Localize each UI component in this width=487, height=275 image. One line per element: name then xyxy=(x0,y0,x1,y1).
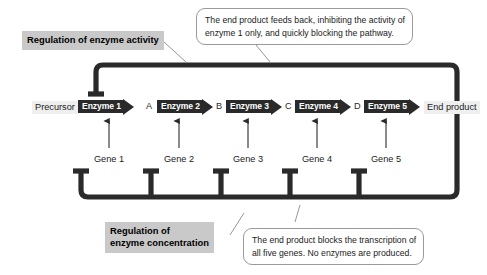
enzyme-label-5: Enzyme 5 xyxy=(364,100,410,113)
end-product-label: End product xyxy=(424,101,480,114)
enzyme-block-3: Enzyme 3 xyxy=(226,100,282,113)
enzyme-concentration-feedback-loop xyxy=(73,170,457,197)
enzyme-arrowhead-1 xyxy=(123,99,134,115)
enzyme-label-3: Enzyme 3 xyxy=(226,100,272,113)
gene-label-2: Gene 2 xyxy=(154,155,204,164)
leader-enzyme-concentration-label xyxy=(230,213,244,235)
callout-bottom-line-1: The end product blocks the transcription… xyxy=(252,234,416,247)
enzyme-arrowhead-2 xyxy=(202,99,213,115)
annotation-concentration-line-1: Regulation of xyxy=(110,225,209,237)
callout-top-line-1: The end product feeds back, inhibiting t… xyxy=(205,14,405,27)
enzyme-block-1: Enzyme 1 xyxy=(78,100,134,113)
intermediate-label-c: C xyxy=(285,102,292,111)
enzyme-block-5: Enzyme 5 xyxy=(364,100,420,113)
callout-enzyme-activity: The end product feeds back, inhibiting t… xyxy=(196,8,413,45)
enzyme-arrowhead-4 xyxy=(340,99,351,115)
enzyme-block-2: Enzyme 2 xyxy=(157,100,213,113)
callout-top-line-2: enzyme 1 only, and quickly blocking the … xyxy=(205,27,405,40)
gene-label-4: Gene 4 xyxy=(292,155,342,164)
enzyme-label-2: Enzyme 2 xyxy=(157,100,203,113)
enzyme-label-1: Enzyme 1 xyxy=(78,100,124,113)
enzyme-label-4: Enzyme 4 xyxy=(295,100,341,113)
precursor-label: Precursor xyxy=(32,101,78,114)
pathway-regulation-diagram: Regulation of enzyme activity The end pr… xyxy=(0,0,487,275)
callout-bottom-line-2: all five genes. No enzymes are produced. xyxy=(252,247,416,260)
leader-top-callout xyxy=(256,45,270,62)
intermediate-label-d: D xyxy=(354,102,361,111)
gene-label-1: Gene 1 xyxy=(84,155,134,164)
transcription-loop-path xyxy=(81,172,457,197)
annotation-concentration-line-2: enzyme concentration xyxy=(110,237,209,249)
enzyme-block-4: Enzyme 4 xyxy=(295,100,351,113)
leader-bottom-callout xyxy=(295,205,300,222)
annotation-enzyme-concentration: Regulation of enzyme concentration xyxy=(105,222,214,253)
gene-label-3: Gene 3 xyxy=(223,155,273,164)
enzyme-arrowhead-3 xyxy=(271,99,282,115)
enzyme-arrowhead-5 xyxy=(409,99,420,115)
leader-enzyme-activity-label xyxy=(164,42,186,62)
gene-label-5: Gene 5 xyxy=(361,155,411,164)
intermediate-label-b: B xyxy=(216,102,222,111)
leader-lines xyxy=(164,42,300,235)
intermediate-label-a: A xyxy=(146,102,152,111)
gene-to-enzyme-arrows xyxy=(109,121,386,148)
callout-enzyme-concentration: The end product blocks the transcription… xyxy=(243,228,424,265)
annotation-enzyme-activity: Regulation of enzyme activity xyxy=(22,31,164,50)
